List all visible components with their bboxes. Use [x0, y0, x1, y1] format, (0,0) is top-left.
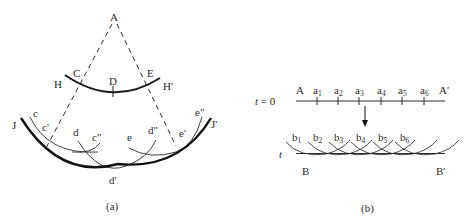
label-e: e: [127, 131, 132, 143]
label-b4: b4: [356, 131, 366, 145]
wavelets-b: [286, 140, 459, 155]
label-d-prime: d': [109, 174, 117, 186]
label-b6: b6: [400, 131, 410, 145]
label-d-dprime: d": [148, 124, 158, 136]
panel-b: t = 0 A A' a1 a2 a3 a4 a5 a6 b1 b2 b3 b4…: [255, 84, 459, 215]
label-a: A: [110, 11, 118, 23]
wavefront-jj: [21, 118, 211, 167]
label-a3: a3: [355, 84, 364, 98]
label-h-prime: H': [163, 80, 173, 92]
label-a4: a4: [377, 84, 386, 98]
wavelet-c: [30, 117, 98, 152]
label-b5: b5: [378, 131, 388, 145]
arrow-down-icon: [362, 106, 368, 127]
label-b-right: B': [436, 165, 445, 177]
label-b2: b2: [313, 131, 323, 145]
label-t: t: [279, 148, 283, 160]
label-h: H: [54, 78, 62, 90]
label-b3: b3: [334, 131, 344, 145]
huygens-diagram: A H H' C D E J J' d' c c' d c" e d" e' e…: [0, 0, 469, 223]
label-d: d: [73, 126, 79, 138]
label-d-upper: D: [109, 75, 117, 87]
label-a6: a6: [420, 84, 429, 98]
label-j-prime: J': [211, 118, 217, 130]
panel-a: A H H' C D E J J' d' c c' d c" e d" e' e…: [12, 11, 217, 213]
label-t0: t = 0: [255, 95, 276, 107]
label-a5: a5: [398, 84, 407, 98]
label-e-dprime: e": [195, 106, 204, 118]
caption-b: (b): [361, 202, 374, 215]
caption-a: (a): [106, 200, 119, 213]
label-e-upper: E: [147, 67, 154, 79]
label-c-dprime: c": [92, 131, 101, 143]
label-a1: a1: [313, 84, 322, 98]
label-e-prime: e': [179, 127, 186, 139]
wavelet-e: [129, 117, 202, 155]
label-c-upper: C: [73, 67, 80, 79]
label-c-prime: c': [42, 121, 49, 133]
label-b-left: B: [302, 165, 309, 177]
label-a-left: A: [296, 84, 304, 96]
label-j: J: [12, 119, 17, 131]
label-b1: b1: [292, 131, 302, 145]
label-a2: a2: [334, 84, 343, 98]
label-a-right: A': [439, 84, 449, 96]
label-c: c: [33, 107, 38, 119]
